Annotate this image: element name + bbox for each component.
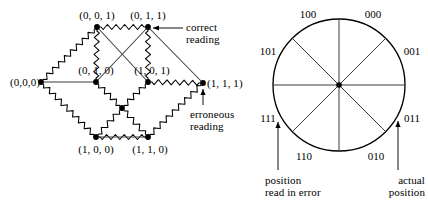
cube-vertex-v001 xyxy=(94,24,100,30)
cube-annotation-erroneous-reading: erroneousreading xyxy=(190,108,234,132)
cube-vertex-vhidden xyxy=(119,105,125,111)
cube-edge-spring-vhidden-v101 xyxy=(122,82,148,108)
cube-vertex-v111 xyxy=(200,80,206,86)
cube-vertex-v101 xyxy=(145,79,151,85)
disc-annotation-position-read-in-error: positionread in error xyxy=(265,174,321,198)
cube-edge-spring-v001-v011 xyxy=(97,25,148,30)
disc-annotation-position-read-in-error-line2: read in error xyxy=(265,186,321,198)
cube-vertex-v011 xyxy=(145,24,151,30)
disc-sector-label-111: 111 xyxy=(260,112,276,124)
disc-sector-label-011: 011 xyxy=(404,112,420,124)
disc-shape xyxy=(273,19,405,151)
disc-sector-label-001: 001 xyxy=(404,45,421,57)
cube-annotation-correct-reading: correctreading xyxy=(186,21,220,45)
cube-annotation-correct-reading-line1: correct xyxy=(186,21,220,33)
cube-annotation-erroneous-reading-line1: erroneous xyxy=(190,108,234,120)
cube-straight-edges xyxy=(41,27,203,137)
disc-annotation-position-read-in-error-line1: position xyxy=(265,174,321,186)
cube-vertex-v010 xyxy=(93,79,99,85)
cube-edge-spring-v000-v100 xyxy=(41,82,96,137)
cube-vertex-label-v101: (1, 0, 1) xyxy=(134,64,170,76)
disc-sector-label-110: 110 xyxy=(296,150,312,162)
cube-vertex-label-v110: (1, 1, 0) xyxy=(132,143,168,155)
disc-center-hub xyxy=(336,82,342,88)
cube-edge-spring-v101-v111 xyxy=(148,80,203,86)
cube-vertex-label-v000: (0,0,0) xyxy=(10,76,40,88)
cube-edge-spring-v010-vhidden xyxy=(96,82,122,108)
cube-vertex-label-v111: (1, 1, 1) xyxy=(207,77,243,89)
cube-annotation-correct-reading-line2: reading xyxy=(186,33,220,45)
cube-vertex-v100 xyxy=(93,134,99,140)
disc-annotation-actual-position-line1: actual xyxy=(389,174,425,186)
disc-annotation-actual-position-line2: position xyxy=(389,186,425,198)
disc-sector-label-100: 100 xyxy=(300,8,317,20)
disc-sector-label-010: 010 xyxy=(368,150,385,162)
cube-edge-spring-v110-vhidden xyxy=(122,108,148,137)
cube-vertex-label-v011: (0, 1, 1) xyxy=(130,9,166,21)
cube-vertex-label-v001: (0, 0, 1) xyxy=(79,9,115,21)
figure-root: (0, 0, 1)(0, 1, 1)(0,0,0)(0, 1, 0)(1, 0,… xyxy=(0,0,428,210)
cube-edge-spring-v100-vhidden xyxy=(96,108,122,137)
disc-annotation-actual-position: actualposition xyxy=(389,174,425,198)
cube-vertex-v110 xyxy=(145,134,151,140)
disc-sector-label-101: 101 xyxy=(260,45,277,57)
cube-vertex-label-v100: (1, 0, 0) xyxy=(78,143,114,155)
cube-vertex-label-v010: (0, 1, 0) xyxy=(78,64,114,76)
cube-annotation-erroneous-reading-line2: reading xyxy=(190,120,234,132)
disc-sector-label-000: 000 xyxy=(365,8,382,20)
